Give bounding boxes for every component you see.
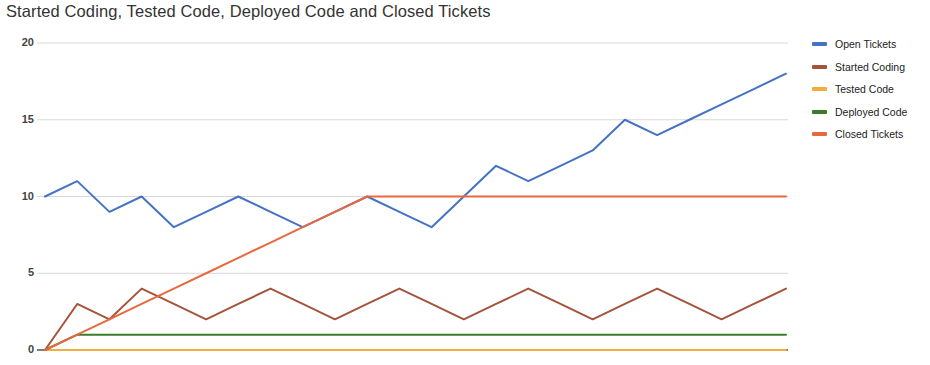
series-line (45, 335, 786, 350)
legend-swatch-icon (812, 87, 827, 91)
line-chart: Started Coding, Tested Code, Deployed Co… (0, 0, 930, 365)
legend-item[interactable]: Deployed Code (812, 101, 930, 124)
legend-item[interactable]: Open Tickets (812, 33, 930, 56)
legend-swatch-icon (812, 110, 827, 114)
legend-swatch-icon (812, 132, 827, 136)
plot-area (0, 0, 930, 365)
y-axis-tick-label: 10 (6, 190, 34, 202)
y-axis-tick-label: 20 (6, 36, 34, 48)
series-line (45, 74, 786, 228)
legend-swatch-icon (812, 42, 827, 46)
chart-legend: Open TicketsStarted CodingTested CodeDep… (812, 33, 930, 146)
legend-item[interactable]: Closed Tickets (812, 123, 930, 146)
y-axis-tick-label: 15 (6, 113, 34, 125)
legend-item-label: Closed Tickets (835, 128, 903, 140)
legend-swatch-icon (812, 65, 827, 69)
series-lines (45, 74, 786, 350)
legend-item-label: Started Coding (835, 61, 905, 73)
legend-item-label: Tested Code (835, 83, 894, 95)
legend-item-label: Deployed Code (835, 106, 907, 118)
y-axis-tick-label: 5 (6, 266, 34, 278)
y-axis-tick-label: 0 (6, 343, 34, 355)
legend-item[interactable]: Started Coding (812, 56, 930, 79)
legend-item-label: Open Tickets (835, 38, 896, 50)
legend-item[interactable]: Tested Code (812, 78, 930, 101)
